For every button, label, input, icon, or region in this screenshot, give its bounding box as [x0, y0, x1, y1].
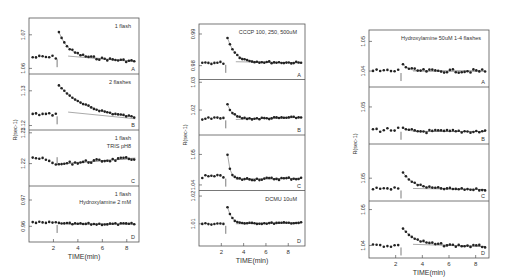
data-point	[226, 103, 229, 106]
data-point	[261, 223, 264, 226]
data-point	[375, 244, 378, 247]
data-point	[469, 188, 472, 191]
data-point	[58, 163, 61, 166]
panel-letter: D	[481, 250, 485, 256]
panel-d: 1.051.04D	[360, 201, 489, 256]
panel-c: 1.051.04C	[190, 135, 305, 190]
data-point	[101, 160, 104, 163]
data-point	[256, 60, 259, 63]
data-point	[229, 213, 232, 216]
data-point	[256, 177, 259, 180]
panel-d: 1.021.01DCMU 10uMD	[190, 191, 305, 245]
data-point	[383, 187, 386, 190]
data-point	[251, 222, 254, 225]
y-tick-label: 1.07	[20, 29, 26, 40]
data-point	[243, 117, 246, 120]
data-point	[405, 128, 408, 131]
y-axis-label: R(sec-1)	[182, 124, 188, 145]
data-point	[393, 129, 396, 132]
data-point	[295, 117, 298, 120]
data-point	[117, 59, 120, 62]
data-point	[275, 222, 278, 225]
data-point	[408, 67, 411, 70]
data-point	[434, 243, 437, 246]
y-tick-label: 1.05	[360, 173, 366, 184]
data-point	[236, 177, 239, 180]
data-point	[484, 189, 487, 192]
data-point	[77, 100, 80, 103]
panel-letter: B	[297, 127, 301, 133]
data-point	[241, 58, 244, 61]
panel-a: 0.990.98CCCP 100, 250, 500uMA	[190, 29, 302, 78]
data-point	[125, 222, 128, 225]
data-point	[300, 116, 303, 119]
data-point	[109, 222, 112, 225]
data-point	[463, 245, 466, 248]
data-point	[243, 58, 246, 61]
data-point	[101, 56, 104, 59]
data-point	[268, 222, 271, 225]
data-point	[111, 113, 114, 116]
data-point	[241, 222, 244, 225]
data-point	[103, 110, 106, 113]
data-point	[273, 61, 276, 64]
data-point	[469, 246, 472, 249]
data-point	[397, 69, 400, 72]
data-point	[460, 71, 463, 74]
data-point	[98, 158, 101, 161]
data-point	[130, 115, 133, 118]
y-tick-label: 1.05	[360, 102, 366, 113]
data-point	[236, 221, 239, 224]
data-point	[295, 222, 298, 225]
data-point	[253, 222, 256, 225]
data-point	[226, 206, 229, 209]
data-point	[413, 129, 416, 132]
data-point	[246, 59, 249, 62]
y-tick-label: 1.05	[360, 36, 366, 47]
x-tick-label: 8	[474, 261, 478, 267]
data-point	[246, 177, 249, 180]
data-point	[431, 241, 434, 244]
data-point	[63, 90, 66, 93]
data-point	[446, 129, 449, 132]
data-point	[128, 114, 131, 117]
panel-letter: C	[297, 183, 301, 189]
y-tick-label: 0.98	[190, 60, 196, 71]
data-point	[133, 116, 136, 119]
data-point	[288, 221, 291, 224]
data-point	[449, 69, 452, 72]
data-point	[452, 243, 455, 246]
data-point	[114, 160, 117, 163]
data-point	[285, 117, 288, 120]
data-point	[66, 92, 69, 95]
data-point	[372, 128, 375, 131]
data-point	[122, 157, 125, 160]
data-point	[446, 187, 449, 190]
panel-letter: C	[481, 193, 485, 199]
data-point	[408, 234, 411, 237]
data-point	[234, 176, 237, 179]
data-point	[428, 185, 431, 188]
data-point	[280, 177, 283, 180]
data-point	[74, 51, 77, 54]
data-point	[236, 115, 239, 118]
data-point	[93, 108, 96, 111]
data-point	[207, 175, 210, 178]
figure: 1.071.061 flashA1.131.122 flashesB1.231.…	[0, 0, 505, 277]
data-point	[419, 184, 422, 187]
x-tick-label: 8	[287, 249, 291, 255]
panel-b: 1.05B	[360, 87, 489, 142]
data-point	[446, 71, 449, 74]
data-point	[213, 62, 216, 65]
y-tick-label: 1.22	[20, 158, 26, 169]
data-point	[402, 127, 405, 130]
data-point	[213, 175, 216, 178]
data-point	[55, 163, 58, 166]
panel-letter: C	[131, 178, 135, 184]
data-point	[68, 160, 71, 163]
data-point	[256, 223, 259, 226]
data-point	[248, 178, 251, 181]
data-point	[60, 163, 63, 166]
data-point	[419, 240, 422, 243]
data-point	[397, 244, 400, 247]
